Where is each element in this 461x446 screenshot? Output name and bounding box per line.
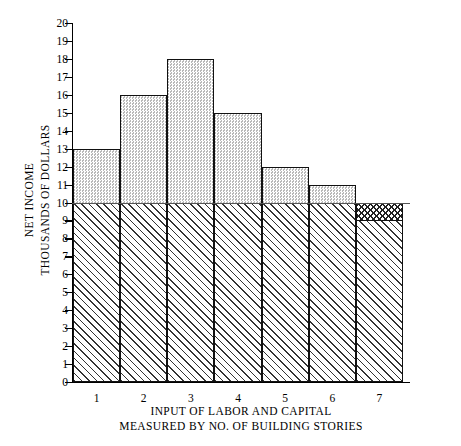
reference-line <box>72 203 410 204</box>
y-tick-label: 15 <box>46 105 68 121</box>
bar-segment-deficit <box>356 203 403 222</box>
y-tick-label: 1 <box>46 356 68 372</box>
y-tick-label: 16 <box>46 87 68 103</box>
bar-segment-above-reference <box>214 113 261 204</box>
bar-segment-below-reference <box>214 203 261 383</box>
bar-segment-above-reference <box>120 95 167 204</box>
y-tick-label: 11 <box>46 177 68 193</box>
x-tick-label-4: 4 <box>223 392 253 404</box>
y-tick-label: 3 <box>46 320 68 336</box>
y-tick-label: 2 <box>46 338 68 354</box>
x-tick-label-5: 5 <box>270 392 300 404</box>
bar-segment-below-reference <box>167 203 214 383</box>
y-tick-label: 9 <box>46 212 68 228</box>
y-tick-label: 13 <box>46 141 68 157</box>
y-tick-label: 12 <box>46 159 68 175</box>
y-tick-label: 17 <box>46 69 68 85</box>
y-tick-label: 6 <box>46 266 68 282</box>
bar-segment-below-reference <box>120 203 167 383</box>
x-tick-label-3: 3 <box>176 392 206 404</box>
bar-segment-above-reference <box>309 185 356 204</box>
x-axis-title: INPUT OF LABOR AND CAPITAL MEASURED BY N… <box>72 404 410 434</box>
bar-segment-below-reference <box>262 203 309 383</box>
y-tick-label: 14 <box>46 123 68 139</box>
x-tick-label-7: 7 <box>364 392 394 404</box>
y-tick-label: 10 <box>46 195 68 211</box>
y-tick-label: 20 <box>46 15 68 31</box>
x-axis-title-line-2: MEASURED BY NO. OF BUILDING STORIES <box>72 419 410 434</box>
bar-segment-above-reference <box>262 167 309 204</box>
bar-segment-above-reference <box>73 149 120 204</box>
x-axis-title-line-1: INPUT OF LABOR AND CAPITAL <box>72 404 410 419</box>
x-axis-line <box>72 382 410 383</box>
bar-segment-above-reference <box>167 59 214 204</box>
bar-segment-below-reference <box>309 203 356 383</box>
x-tick-label-1: 1 <box>82 392 112 404</box>
x-tick-label-6: 6 <box>317 392 347 404</box>
y-tick-label: 7 <box>46 248 68 264</box>
y-tick-label: 18 <box>46 51 68 67</box>
x-tick-label-2: 2 <box>129 392 159 404</box>
bar-chart: NET INCOME THOUSANDS OF DOLLARS 01234567… <box>0 0 461 446</box>
bar-segment-below-reference <box>356 220 403 382</box>
y-tick-label: 4 <box>46 302 68 318</box>
y-tick-label: 8 <box>46 230 68 246</box>
plot-area: 01234567891011121314151617181920 1234567 <box>72 23 402 382</box>
y-tick-label: 19 <box>46 33 68 49</box>
y-tick-label: 5 <box>46 284 68 300</box>
y-axis-title-line-1: NET INCOME <box>23 163 35 237</box>
bar-segment-below-reference <box>73 203 120 383</box>
y-tick-label: 0 <box>46 374 68 390</box>
